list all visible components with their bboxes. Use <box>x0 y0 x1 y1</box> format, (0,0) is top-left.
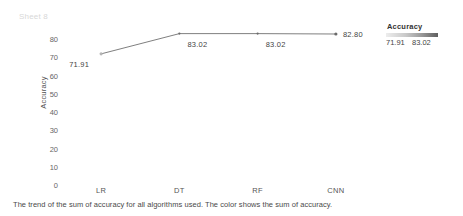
plot-area: 71.9183.0283.0282.80 <box>62 30 375 185</box>
y-axis-tick-label: 0 <box>18 181 58 190</box>
x-axis-tick-label: LR <box>96 186 106 195</box>
accuracy-line <box>101 34 336 54</box>
y-axis-tick-label: 80 <box>18 35 58 44</box>
chart-caption: The trend of the sum of accuracy for all… <box>13 200 332 209</box>
data-point-marker <box>257 33 259 35</box>
legend-min-value: 71.91 <box>386 38 405 47</box>
legend-scale: 71.91 83.02 <box>386 38 442 48</box>
legend-title: Accuracy <box>387 22 456 31</box>
y-axis-tick-label: 40 <box>18 108 58 117</box>
x-axis-tick-label: CNN <box>327 186 344 195</box>
x-axis-tick-label: DT <box>174 186 185 195</box>
y-axis-tick-label: 50 <box>18 89 58 98</box>
legend: Accuracy 71.91 83.02 <box>386 22 456 48</box>
data-point-marker <box>178 33 180 35</box>
y-axis-tick-label: 70 <box>18 53 58 62</box>
data-point-marker <box>100 52 103 55</box>
legend-color-ramp <box>386 33 438 37</box>
data-point-label: 71.91 <box>69 59 89 68</box>
y-axis-tick-label: 20 <box>18 144 58 153</box>
data-point-label: 82.80 <box>343 30 363 39</box>
legend-max-value: 83.02 <box>412 38 431 47</box>
x-axis-ticks: LRDTRFCNN <box>62 186 375 200</box>
data-point-marker <box>334 32 337 35</box>
accuracy-markers <box>100 32 338 55</box>
y-axis-tick-label: 60 <box>18 71 58 80</box>
y-axis-tick-label: 10 <box>18 162 58 171</box>
line-series-svg <box>62 30 375 185</box>
y-axis-tick-label: 30 <box>18 126 58 135</box>
x-axis-tick-label: RF <box>252 186 263 195</box>
data-point-label: 83.02 <box>187 39 207 48</box>
data-point-label: 83.02 <box>266 39 286 48</box>
chart-viz: Accuracy 80706050403020100 71.9183.0283.… <box>0 0 463 196</box>
y-axis-ticks: 80706050403020100 <box>18 30 58 185</box>
